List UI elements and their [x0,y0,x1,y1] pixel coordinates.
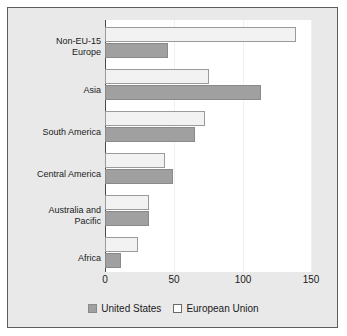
bar-united-states-africa [105,253,121,268]
legend-label-united-states: United States [101,303,161,314]
bar-european-union-non-eu-15-europe [105,27,296,42]
category-axis-labels: Non-EU-15 Europe Asia South America Cent… [10,20,103,272]
category-label-australia-pacific: Australia and Pacific [9,205,101,227]
legend-swatch-united-states-icon [88,304,97,313]
x-axis-tick-labels: 0 50 100 150 [105,274,312,290]
legend-swatch-european-union-icon [173,304,182,313]
bar-european-union-central-america [105,153,165,168]
category-label-south-america: South America [9,127,101,138]
bar-united-states-australia-pacific [105,211,149,226]
x-tick-150: 150 [303,274,320,285]
category-label-africa: Africa [9,253,101,264]
bar-european-union-south-america [105,111,205,126]
category-label-central-america: Central America [9,169,101,180]
gridline-150 [311,20,312,272]
legend-label-european-union: European Union [186,303,258,314]
gridline-50 [174,20,175,272]
x-tick-0: 0 [102,274,108,285]
chart-legend: United States European Union [0,303,347,314]
legend-item-united-states: United States [88,303,161,314]
legend-item-european-union: European Union [173,303,258,314]
x-tick-100: 100 [235,274,252,285]
bar-european-union-asia [105,69,209,84]
bar-united-states-asia [105,85,261,100]
category-label-asia: Asia [9,85,101,96]
category-label-non-eu-15-europe: Non-EU-15 Europe [9,36,101,58]
bar-united-states-central-america [105,169,173,184]
bar-european-union-australia-pacific [105,195,149,210]
gridline-100 [243,20,244,272]
chart-figure: Non-EU-15 Europe Asia South America Cent… [0,0,347,336]
bar-european-union-africa [105,237,138,252]
bar-united-states-non-eu-15-europe [105,43,168,58]
bar-united-states-south-america [105,127,195,142]
x-tick-50: 50 [168,274,179,285]
